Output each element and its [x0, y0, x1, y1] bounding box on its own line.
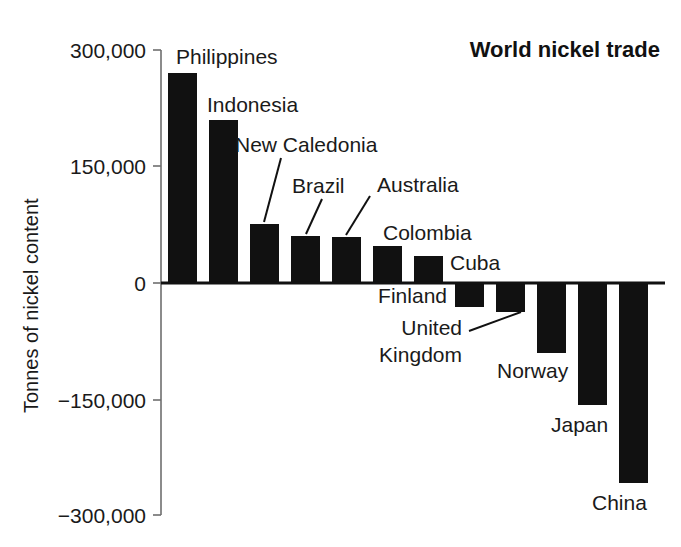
- bar-brazil: [291, 236, 320, 283]
- y-tick-label-150000: 150,000: [70, 155, 146, 178]
- leader-united-kingdom: [469, 312, 521, 331]
- label-united-kingdom-line1: United: [401, 316, 462, 339]
- bar-norway: [537, 283, 566, 353]
- bar-philippines: [168, 73, 197, 283]
- y-tick-label-0: 0: [134, 272, 146, 295]
- y-tick-label-300000: 300,000: [70, 39, 146, 62]
- bar-united-kingdom: [496, 283, 525, 312]
- label-brazil: Brazil: [292, 174, 345, 197]
- bar-cuba: [414, 256, 443, 283]
- chart-canvas: 300,000 150,000 0 −150,000 −300,000 Tonn…: [0, 0, 681, 547]
- bar-indonesia: [209, 120, 238, 283]
- label-finland: Finland: [378, 284, 447, 307]
- label-colombia: Colombia: [383, 221, 472, 244]
- bar-new-caledonia: [250, 224, 279, 283]
- label-cuba: Cuba: [450, 251, 501, 274]
- label-united-kingdom-line2: Kingdom: [379, 343, 462, 366]
- bar-colombia: [373, 246, 402, 283]
- y-tick-label-neg300000: −300,000: [58, 504, 146, 527]
- label-norway: Norway: [497, 359, 569, 382]
- chart-figure: 300,000 150,000 0 −150,000 −300,000 Tonn…: [0, 0, 681, 547]
- label-new-caledonia: New Caledonia: [235, 133, 378, 156]
- label-philippines: Philippines: [176, 45, 278, 68]
- bar-australia: [332, 237, 361, 283]
- label-indonesia: Indonesia: [207, 93, 298, 116]
- bar-finland: [455, 283, 484, 307]
- label-china: China: [592, 491, 647, 514]
- label-australia: Australia: [377, 173, 459, 196]
- y-tick-label-neg150000: −150,000: [58, 389, 146, 412]
- label-japan: Japan: [551, 413, 608, 436]
- y-axis-title: Tonnes of nickel content: [20, 198, 42, 413]
- chart-title: World nickel trade: [470, 37, 660, 62]
- bar-japan: [578, 283, 607, 405]
- bar-china: [619, 283, 648, 483]
- leader-new-caledonia: [264, 158, 281, 222]
- leader-australia: [346, 196, 370, 235]
- leader-brazil: [306, 199, 322, 234]
